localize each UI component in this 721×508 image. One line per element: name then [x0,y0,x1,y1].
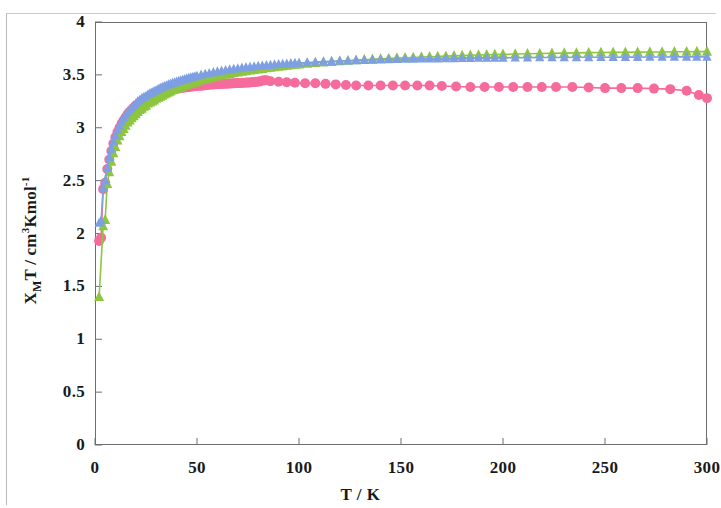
data-point-circle [465,82,475,92]
data-point-circle [290,78,300,88]
x-tick-label: 200 [468,458,538,478]
data-point-circle [331,79,341,89]
y-axis-title-subscript: M [30,280,44,292]
data-point-circle [363,80,373,90]
data-point-circle [310,78,320,88]
data-point-circle [551,82,561,92]
data-point-circle [300,78,310,88]
series-pink-circles [94,75,712,246]
data-point-circle [537,82,547,92]
x-tick-label: 0 [60,458,130,478]
data-point-circle [321,79,331,89]
data-point-circle [508,82,518,92]
y-axis-title-superscript-inverse: -1 [19,177,31,187]
data-series-group [94,46,712,301]
x-tick-label: 150 [366,458,436,478]
data-point-circle [388,80,398,90]
y-axis-title-superscript-cubic: 3 [19,228,31,234]
x-axis-title: T / K [0,485,721,505]
data-point-circle [584,83,594,93]
data-point-circle [649,84,659,94]
data-point-circle [425,80,435,90]
data-point-circle [567,82,577,92]
chart-canvas [0,0,721,508]
data-point-circle [451,82,461,92]
y-tick-label: 0 [3,435,85,455]
data-point-circle [522,82,532,92]
y-axis-title-tail: Kmol [21,186,40,227]
data-point-triangle [94,291,104,301]
data-point-circle [96,233,106,243]
data-point-circle [400,80,410,90]
data-point-circle [665,84,675,94]
x-tick-label: 100 [264,458,334,478]
series-blue-triangles [94,52,711,227]
series-line [99,80,707,241]
data-point-circle [633,83,643,93]
x-tick-label: 300 [672,458,721,478]
data-point-circle [702,93,712,103]
data-point-circle [494,82,504,92]
figure-container: 00.511.522.533.54 050100150200250300 T /… [0,0,721,508]
y-tick-label: 4 [3,12,85,32]
data-point-circle [600,83,610,93]
data-point-circle [437,81,447,91]
y-tick-label: 0.5 [3,382,85,402]
data-point-circle [480,82,490,92]
data-point-circle [682,86,692,96]
data-point-circle [412,80,422,90]
x-tick-label: 250 [570,458,640,478]
y-axis-title: XMT / cm3Kmol-1 [19,131,44,351]
data-point-circle [351,80,361,90]
y-axis-title-symbol: X [21,292,40,304]
data-point-circle [616,83,626,93]
x-tick-label: 50 [162,458,232,478]
data-point-circle [376,80,386,90]
y-axis-title-middle: T / cm [21,233,40,280]
y-tick-label: 3.5 [3,65,85,85]
data-point-circle [341,80,351,90]
